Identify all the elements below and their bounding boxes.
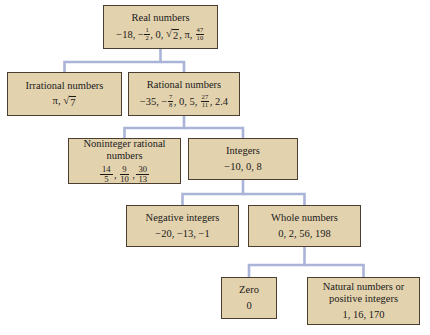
fraction-one-half: 12 <box>144 27 149 42</box>
fraction-30-13: 3013 <box>136 165 149 184</box>
radicand: 2 <box>172 29 179 41</box>
node-rational-numbers-label: Rational numbers <box>147 79 221 91</box>
node-natural-numbers-examples: 1, 16, 170 <box>343 309 385 321</box>
node-integers-examples: −10, 0, 8 <box>224 161 261 173</box>
edge-whole-zero <box>249 247 305 277</box>
node-integers: Integers −10, 0, 8 <box>188 138 298 180</box>
node-natural-numbers-label-line2: positive integers <box>329 293 398 305</box>
separator-comma: , <box>132 169 135 181</box>
edge-real-irrational <box>65 49 161 72</box>
fraction-denominator: 11 <box>201 102 209 109</box>
node-irrational-numbers-examples: π, √7 <box>53 95 77 108</box>
rational-literal-c: , 2.4 <box>210 96 228 108</box>
node-whole-numbers-label: Whole numbers <box>271 212 338 224</box>
fraction-14-5: 145 <box>100 165 113 184</box>
node-noninteger-rational-numbers-label-line2: numbers <box>106 150 142 162</box>
edge-real-rational <box>161 62 185 72</box>
separator-comma: , <box>114 169 117 181</box>
radicand: 7 <box>69 96 76 108</box>
node-negative-integers-label: Negative integers <box>146 212 220 224</box>
node-whole-numbers-examples: 0, 2, 56, 198 <box>278 228 331 240</box>
node-rational-numbers: Rational numbers −35, −78, 0, 5, 2711, 2… <box>128 72 240 116</box>
radical-sqrt-2: √2 <box>166 28 179 41</box>
node-irrational-numbers: Irrational numbers π, √7 <box>7 72 122 116</box>
node-negative-integers: Negative integers −20, −13, −1 <box>126 205 239 247</box>
rational-literal-a: −35, <box>140 96 159 108</box>
real-literal-b: , 0, <box>150 29 163 41</box>
node-noninteger-rational-numbers: Noninteger rational numbers 145, 910, 30… <box>68 138 181 184</box>
node-noninteger-rational-numbers-label-line1: Noninteger rational <box>84 138 166 150</box>
node-rational-numbers-examples: −35, −78, 0, 5, 2711, 2.4 <box>140 94 228 109</box>
fraction-9-10: 910 <box>118 165 131 184</box>
real-literal-c: , <box>179 29 182 41</box>
real-literal-a: −18, <box>116 29 135 41</box>
fraction-denominator: 10 <box>196 35 205 42</box>
node-irrational-numbers-label: Irrational numbers <box>26 80 104 92</box>
node-zero-examples: 0 <box>246 300 251 312</box>
node-whole-numbers: Whole numbers 0, 2, 56, 198 <box>248 205 361 247</box>
fraction-denominator: 13 <box>136 175 149 184</box>
number-classification-diagram: Real numbers −18, −12, 0, √2, π, 4710 Ir… <box>0 0 430 335</box>
real-literal-d: , <box>190 29 193 41</box>
edge-integers-negative <box>183 180 244 205</box>
fraction-denominator: 10 <box>118 175 131 184</box>
node-negative-integers-examples: −20, −13, −1 <box>155 228 210 240</box>
edge-integers-whole <box>243 194 305 205</box>
rational-literal-b: , 0, 5, <box>174 96 198 108</box>
edge-whole-natural <box>305 265 364 277</box>
fraction-47-10: 4710 <box>196 27 205 42</box>
irrational-literal-a: , <box>58 95 61 107</box>
fraction-7-8: 78 <box>168 94 173 109</box>
node-real-numbers-examples: −18, −12, 0, √2, π, 4710 <box>116 27 204 42</box>
fraction-denominator: 2 <box>144 35 149 42</box>
fraction-list: 145, 910, 3013 <box>99 165 149 184</box>
node-natural-numbers-label-line1: Natural numbers or <box>323 281 405 293</box>
node-integers-label: Integers <box>226 145 260 157</box>
node-natural-numbers: Natural numbers or positive integers 1, … <box>307 277 420 325</box>
minus-sign: − <box>162 96 168 108</box>
radical-sqrt-7: √7 <box>63 95 76 108</box>
fraction-denominator: 5 <box>102 175 110 184</box>
node-real-numbers-label: Real numbers <box>131 12 189 24</box>
edge-rational-integers <box>184 128 243 138</box>
minus-sign: − <box>138 29 144 41</box>
node-zero: Zero 0 <box>221 277 277 319</box>
node-noninteger-rational-numbers-examples: 145, 910, 3013 <box>99 165 149 184</box>
edge-rational-noninteger <box>125 116 185 138</box>
fraction-denominator: 8 <box>168 102 173 109</box>
fraction-27-11: 2711 <box>201 94 210 109</box>
node-real-numbers: Real numbers −18, −12, 0, √2, π, 4710 <box>103 5 218 49</box>
node-zero-label: Zero <box>239 284 259 296</box>
